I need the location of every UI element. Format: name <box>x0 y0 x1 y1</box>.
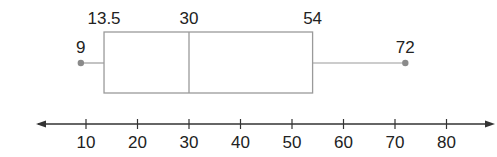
axis-tick-label: 40 <box>231 133 250 152</box>
axis-tick-label: 80 <box>437 133 456 152</box>
q1-label: 13.5 <box>87 9 120 28</box>
axis-tick-label: 60 <box>334 133 353 152</box>
max-point <box>402 60 408 66</box>
axis-tick-label: 20 <box>128 133 147 152</box>
axis-tick-label: 30 <box>180 133 199 152</box>
q3-label: 54 <box>303 9 322 28</box>
number-line-axis: 1020304050607080 <box>36 119 495 152</box>
axis-tick-label: 50 <box>283 133 302 152</box>
axis-tick-label: 70 <box>386 133 405 152</box>
interquartile-box <box>104 32 313 93</box>
median-label: 30 <box>180 9 199 28</box>
max-label: 72 <box>396 38 415 57</box>
right-arrow-icon <box>485 121 495 128</box>
box-plot: 9 13.5 30 54 72 <box>76 9 415 93</box>
min-label: 9 <box>76 38 85 57</box>
min-point <box>78 60 84 66</box>
left-arrow-icon <box>36 121 46 128</box>
axis-tick-label: 10 <box>77 133 96 152</box>
box-plot-chart: 1020304050607080 9 13.5 30 54 72 <box>0 0 497 157</box>
